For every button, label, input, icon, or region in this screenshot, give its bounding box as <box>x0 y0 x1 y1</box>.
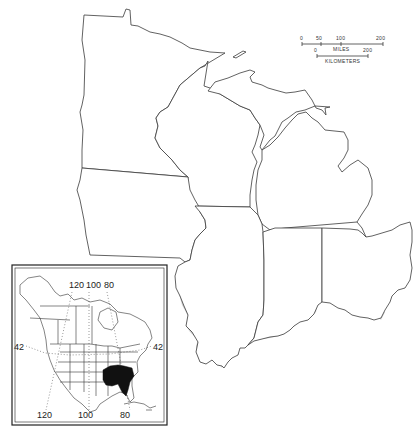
svg-text:0: 0 <box>300 35 303 41</box>
range-map: 0 50 100 200 MILES 0 200 KILOMETERS 120 … <box>0 0 420 431</box>
svg-text:80: 80 <box>104 280 114 290</box>
svg-text:120: 120 <box>69 280 84 290</box>
svg-text:50: 50 <box>316 35 322 41</box>
svg-text:42: 42 <box>153 342 163 352</box>
scale-bar: 0 50 100 200 MILES 0 200 KILOMETERS <box>300 35 385 64</box>
inset-locator-map: 120 100 80 42 42 120 100 80 <box>12 265 167 425</box>
svg-text:80: 80 <box>120 410 130 420</box>
svg-text:200: 200 <box>363 47 372 53</box>
svg-text:0: 0 <box>314 47 317 53</box>
isle-royale <box>233 51 246 58</box>
state-iowa <box>77 168 206 262</box>
svg-text:KILOMETERS: KILOMETERS <box>325 58 361 64</box>
svg-text:100: 100 <box>336 35 345 41</box>
state-ohio <box>322 222 412 320</box>
svg-text:MILES: MILES <box>333 46 350 52</box>
svg-text:200: 200 <box>376 35 385 41</box>
svg-text:100: 100 <box>86 280 101 290</box>
svg-text:120: 120 <box>37 410 52 420</box>
svg-text:42: 42 <box>14 342 24 352</box>
